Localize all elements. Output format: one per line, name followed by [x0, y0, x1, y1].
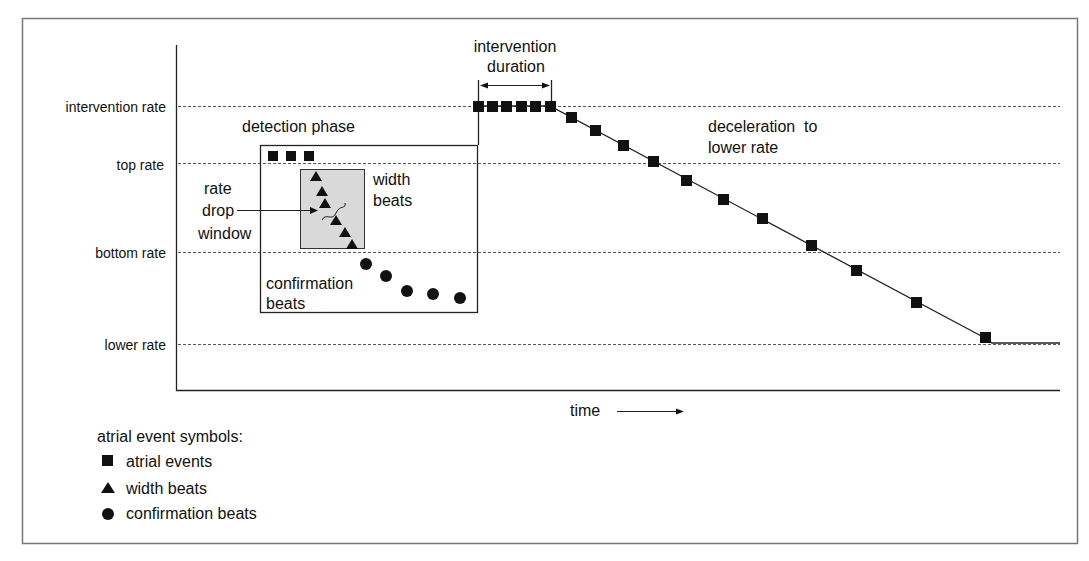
label-rate: rate: [204, 180, 232, 197]
label-width: width: [372, 171, 410, 188]
legend-label-confirmation-beats: confirmation beats: [126, 505, 257, 522]
label-beats-confirmation: beats: [266, 295, 305, 312]
label-bottom-rate: bottom rate: [95, 245, 166, 261]
rate-drop-diagram: intervention rate top rate bottom rate l…: [0, 0, 1089, 561]
duration-arrowhead-left: [480, 83, 488, 89]
legend-label-atrial-events: atrial events: [126, 453, 212, 470]
label-time: time: [570, 402, 600, 419]
label-intervention-rate: intervention rate: [66, 99, 167, 115]
label-lower-rate: lower rate: [105, 337, 167, 353]
label-top-rate: top rate: [117, 157, 165, 173]
label-beats-width: beats: [373, 192, 412, 209]
label-drop: drop: [202, 202, 234, 219]
detection-atrial-events: [268, 151, 314, 161]
legend-triangle-icon: [101, 482, 115, 493]
confirmation-beat-circles: [360, 258, 466, 304]
legend-square-icon: [102, 455, 113, 466]
label-lower-rate-target: lower rate: [708, 139, 778, 156]
legend-title: atrial event symbols:: [97, 428, 243, 445]
label-intervention: intervention: [474, 38, 557, 55]
time-arrowhead: [676, 409, 684, 415]
label-detection-phase: detection phase: [242, 118, 355, 135]
label-window: window: [197, 225, 252, 242]
label-deceleration: deceleration to: [708, 118, 818, 135]
label-duration: duration: [487, 58, 545, 75]
legend-circle-icon: [102, 508, 114, 520]
duration-arrowhead-right: [542, 83, 550, 89]
label-confirmation: confirmation: [266, 275, 353, 292]
legend-label-width-beats: width beats: [125, 480, 207, 497]
